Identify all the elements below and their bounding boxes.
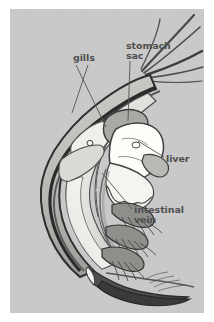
label-liver: liver bbox=[166, 154, 189, 164]
illustration-panel: gills stomach sac liver intestinal vein bbox=[10, 9, 204, 313]
label-gills: gills bbox=[73, 53, 95, 63]
label-intestinal-vein: intestinal vein bbox=[134, 205, 184, 225]
liver-highlight bbox=[132, 142, 140, 148]
gill-node bbox=[87, 140, 93, 145]
label-stomach-sac: stomach sac bbox=[126, 41, 171, 61]
leader-gills-2 bbox=[72, 65, 88, 113]
figure-container: gills stomach sac liver intestinal vein bbox=[0, 0, 214, 322]
